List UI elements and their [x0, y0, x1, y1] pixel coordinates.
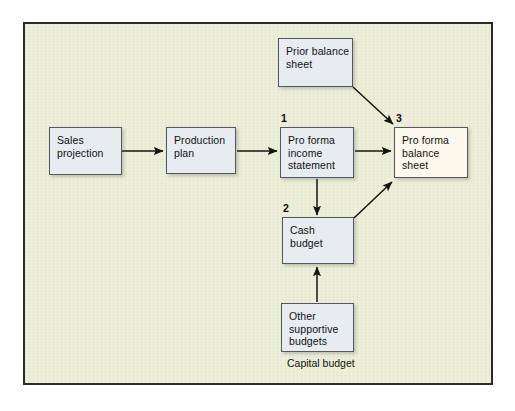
node-line: Cash: [290, 224, 353, 237]
node-pro-forma-balance-sheet[interactable]: Pro forma balance sheet: [394, 127, 468, 178]
node-line: statement: [288, 159, 353, 172]
node-line: budgets: [289, 335, 353, 348]
node-cash-budget[interactable]: Cash budget: [282, 217, 354, 264]
node-line: Pro forma: [402, 134, 467, 147]
node-pro-forma-income-statement[interactable]: Pro forma income statement: [280, 127, 354, 178]
node-line: Production: [174, 134, 235, 147]
node-prior-balance-sheet[interactable]: Prior balance sheet: [278, 38, 353, 87]
node-line: Other: [289, 310, 353, 323]
step-number-2: 2: [283, 203, 289, 214]
node-line: sheet: [402, 159, 467, 172]
node-line: supportive: [289, 323, 353, 336]
node-other-supportive-budgets[interactable]: Other supportive budgets: [281, 303, 354, 352]
node-line: projection: [57, 147, 121, 160]
node-production-plan[interactable]: Production plan: [166, 127, 236, 174]
node-sales-projection[interactable]: Sales projection: [49, 127, 122, 175]
node-line: plan: [174, 147, 235, 160]
node-line: balance: [402, 147, 467, 160]
step-number-3: 3: [396, 113, 402, 124]
node-line: budget: [290, 237, 353, 250]
caption-capital-budget: Capital budget: [287, 357, 355, 370]
node-line: sheet: [286, 58, 352, 71]
node-line: Prior balance: [286, 45, 352, 58]
diagram-frame: [23, 22, 493, 385]
diagram-canvas: Sales projection Production plan Prior b…: [0, 0, 515, 411]
node-line: Sales: [57, 134, 121, 147]
step-number-1: 1: [281, 113, 287, 124]
node-line: income: [288, 147, 353, 160]
node-line: Pro forma: [288, 134, 353, 147]
